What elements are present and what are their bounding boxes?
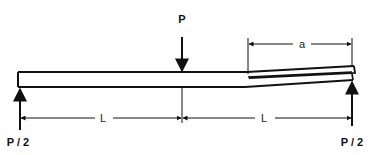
beam-top-edge — [18, 66, 354, 72]
left-span-label: L — [100, 112, 106, 124]
beam — [18, 66, 355, 87]
left-span-dimension: L — [21, 112, 181, 124]
center-load: P — [178, 13, 185, 123]
enf-diagram: P P / 2 P / 2 a L L — [0, 0, 371, 155]
lower-arm-end — [352, 74, 353, 80]
center-load-label: P — [178, 13, 185, 25]
right-span-label: L — [261, 112, 267, 124]
beam-bottom-edge — [18, 80, 353, 87]
crack-length-label: a — [299, 38, 306, 50]
right-span-dimension: L — [183, 112, 351, 124]
right-reaction-label: P / 2 — [341, 136, 363, 148]
right-reaction: P / 2 — [341, 82, 363, 148]
left-reaction-label: P / 2 — [7, 136, 29, 148]
